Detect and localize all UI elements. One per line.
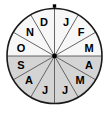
sector-label-march: M bbox=[84, 42, 93, 54]
sector-label-november: N bbox=[26, 26, 34, 38]
sector-label-september: S bbox=[17, 59, 24, 71]
sector-label-august: A bbox=[25, 74, 33, 86]
sector-label-may: M bbox=[75, 74, 84, 86]
wheel-hub-dot bbox=[52, 54, 57, 59]
sector-label-july: J bbox=[42, 84, 48, 96]
sector-label-january: J bbox=[63, 16, 69, 28]
sector-label-february: F bbox=[78, 26, 85, 38]
sector-label-april: A bbox=[85, 59, 93, 71]
spinner-figure: JFMAMJJASOND bbox=[0, 0, 110, 113]
spinner-wheel[interactable]: JFMAMJJASOND bbox=[0, 0, 110, 113]
sector-label-june: J bbox=[62, 84, 68, 96]
sector-label-december: D bbox=[40, 16, 48, 28]
sector-label-october: O bbox=[17, 42, 26, 54]
